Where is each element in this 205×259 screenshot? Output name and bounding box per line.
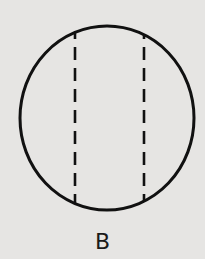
circle-diagram	[0, 0, 205, 259]
circle-outline	[20, 26, 194, 210]
figure-label: B	[0, 229, 205, 255]
